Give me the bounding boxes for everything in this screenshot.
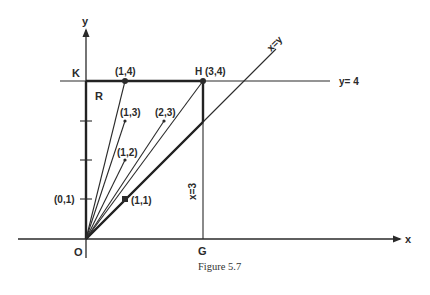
ray-to-1-3 bbox=[86, 121, 125, 239]
label-x-equals-3: x=3 bbox=[187, 183, 198, 200]
point-1-1 bbox=[122, 196, 128, 202]
origin-label: O bbox=[74, 246, 83, 258]
label-p23: (2,3) bbox=[155, 107, 176, 118]
label-K: K bbox=[72, 67, 80, 79]
point-3-4 bbox=[200, 78, 206, 84]
point-1-4 bbox=[122, 78, 128, 84]
region-boundary-diagonal bbox=[86, 122, 203, 239]
label-H: H (3,4) bbox=[195, 66, 226, 77]
label-G: G bbox=[198, 245, 207, 257]
label-p11: (1,1) bbox=[131, 195, 152, 206]
point-1-3 bbox=[123, 119, 126, 122]
label-R: R bbox=[95, 90, 103, 102]
y-axis-label: y bbox=[82, 15, 89, 27]
label-p14: (1,4) bbox=[115, 66, 136, 77]
point-2-3 bbox=[162, 119, 165, 122]
label-p01: (0,1) bbox=[54, 194, 75, 205]
ray-to-3-4 bbox=[86, 81, 203, 239]
figure-caption: Figure 5.7 bbox=[198, 261, 241, 272]
label-y-equals-4: y= 4 bbox=[339, 76, 359, 87]
point-1-2 bbox=[123, 158, 126, 161]
label-x-equals-y: x=y bbox=[265, 33, 285, 53]
label-p13: (1,3) bbox=[120, 107, 141, 118]
ray-to-2-3 bbox=[86, 121, 164, 239]
x-axis-label: x bbox=[405, 233, 412, 245]
figure-5-7-diagram: y x O K R G (1,4) H (3,4) (1,3) (2,3) (1… bbox=[0, 0, 430, 295]
label-p12: (1,2) bbox=[117, 147, 138, 158]
